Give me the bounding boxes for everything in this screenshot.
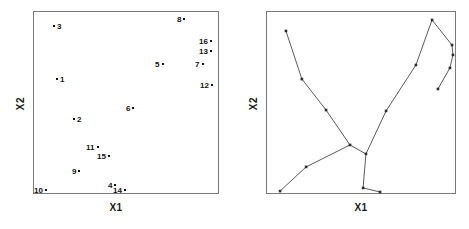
network-edge <box>366 111 386 154</box>
scatter-x-axis-label: X1 <box>109 202 122 213</box>
network-node <box>362 187 365 190</box>
network-graph-layer <box>235 0 469 229</box>
network-node <box>385 110 388 113</box>
network-y-axis-label: X2 <box>248 94 259 114</box>
network-edge <box>306 145 350 167</box>
network-node <box>305 166 308 169</box>
network-edge <box>450 55 453 68</box>
network-edge <box>416 20 432 65</box>
scatter-plot-frame <box>33 11 219 194</box>
network-edge <box>452 45 453 55</box>
network-node <box>431 19 434 22</box>
network-node <box>285 30 288 33</box>
figure-canvas: 38161375112621115941410 X2 X1 X2 X1 <box>0 0 469 229</box>
scatter-y-axis-label: X2 <box>15 94 26 114</box>
network-node <box>415 64 418 67</box>
network-edge <box>363 154 366 188</box>
network-edge <box>386 65 416 111</box>
network-edge <box>438 68 450 89</box>
network-edge <box>350 145 366 154</box>
network-node <box>301 78 304 81</box>
network-edge <box>326 110 350 145</box>
network-edge <box>363 188 380 192</box>
network-node <box>379 191 382 194</box>
network-node <box>325 109 328 112</box>
network-node <box>451 44 454 47</box>
network-edge <box>280 167 306 191</box>
network-node <box>349 144 352 147</box>
network-node <box>279 190 282 193</box>
network-node <box>437 88 440 91</box>
network-edge <box>432 20 452 45</box>
network-x-axis-label: X1 <box>354 202 367 213</box>
network-edge <box>286 31 302 79</box>
network-edge <box>302 79 326 110</box>
network-node <box>449 67 452 70</box>
network-node <box>365 153 368 156</box>
network-panel: X2 X1 <box>235 0 469 229</box>
network-node <box>452 54 455 57</box>
scatter-panel: 38161375112621115941410 X2 X1 <box>0 0 235 229</box>
